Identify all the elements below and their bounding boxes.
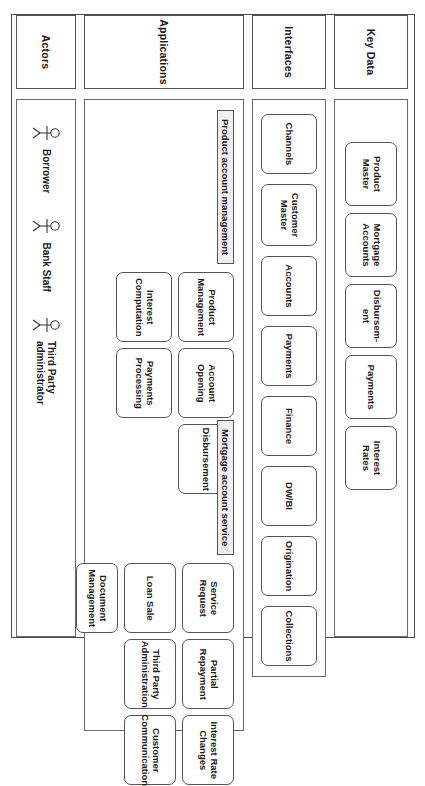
actor-bank-staff[interactable]: Bank Staff [31, 215, 61, 291]
actor-label-third-party-administrator: Third Partyadministrator [35, 341, 58, 405]
interface-node-customer-master[interactable]: CustomerMaster [261, 184, 317, 246]
app-node-account-opening[interactable]: AccountOpening [178, 348, 234, 418]
actor-stick-figure-icon [31, 122, 61, 144]
interface-node-collections[interactable]: Collections [261, 606, 317, 666]
app-node-loan-sale[interactable]: Loan Sale [124, 563, 176, 633]
actor-borrower[interactable]: Borrower [31, 122, 61, 193]
layer-body-key-data: ProductMaster MortgageAccounts Disbursem… [334, 99, 408, 637]
layer-label-actors: Actors [16, 15, 76, 89]
app-node-service-request[interactable]: ServiceRequest [182, 563, 234, 633]
key-data-node-disbursement[interactable]: Disbursem-ent [345, 284, 397, 348]
layer-key-data: Key Data ProductMaster MortgageAccounts … [334, 15, 408, 637]
layer-label-applications: Applications [84, 15, 244, 89]
layer-body-interfaces: Channels CustomerMaster Accounts Payment… [252, 99, 326, 677]
key-data-node-interest-rates[interactable]: InterestRates [345, 426, 397, 490]
group-title-product-account-management: Product account management [217, 110, 234, 264]
diagram-board: Key Data ProductMaster MortgageAccounts … [11, 14, 415, 638]
actor-third-party-administrator[interactable]: Third Partyadministrator [31, 314, 61, 405]
layer-actors: Actors Borrower [16, 15, 76, 637]
actor-label-bank-staff: Bank Staff [40, 242, 52, 291]
app-node-interest-computation[interactable]: InterestComputation [116, 272, 172, 342]
app-node-customer-communication[interactable]: CustomerCommunication [124, 715, 176, 785]
interface-node-channels[interactable]: Channels [261, 114, 317, 174]
interface-node-origination[interactable]: Origination [261, 536, 317, 596]
layer-applications: Applications Product account management … [84, 15, 244, 637]
actor-stick-figure-icon [31, 314, 61, 336]
application-group-mortgage-account-service: Mortgage account service ServiceRequest … [76, 420, 234, 720]
actor-label-borrower: Borrower [40, 149, 52, 193]
key-data-node-product-master[interactable]: ProductMaster [345, 142, 397, 206]
app-node-partial-repayment[interactable]: PartialRepayment [182, 639, 234, 709]
key-data-node-mortgage-accounts[interactable]: MortgageAccounts [345, 213, 397, 277]
app-node-product-management[interactable]: ProductManagement [178, 272, 234, 342]
interface-node-dw-bi[interactable]: DW/BI [261, 466, 317, 526]
interface-node-finance[interactable]: Finance [261, 396, 317, 456]
layer-interfaces: Interfaces Channels CustomerMaster Accou… [252, 15, 326, 637]
application-group-product-account-management: Product account management ProductManage… [116, 110, 234, 410]
key-data-node-payments[interactable]: Payments [345, 355, 397, 419]
group-grid-mortgage-account-service: ServiceRequest PartialRepayment Interest… [76, 563, 234, 785]
interface-node-payments[interactable]: Payments [261, 326, 317, 386]
actor-stick-figure-icon [31, 215, 61, 237]
layer-label-key-data: Key Data [334, 15, 408, 89]
app-node-interest-rate-changes[interactable]: Interest RateChanges [182, 715, 234, 785]
app-node-document-management[interactable]: DocumentManagement [76, 563, 118, 633]
app-node-third-party-administration[interactable]: Third PartyAdministration [124, 639, 176, 709]
layer-body-actors: Borrower Bank Staff [16, 99, 76, 637]
group-title-mortgage-account-service: Mortgage account service [217, 420, 234, 555]
interface-node-accounts[interactable]: Accounts [261, 256, 317, 316]
layer-label-interfaces: Interfaces [252, 15, 326, 89]
layer-body-applications: Product account management ProductManage… [84, 99, 244, 731]
app-node-payments-processing[interactable]: PaymentsProcessing [116, 348, 172, 418]
